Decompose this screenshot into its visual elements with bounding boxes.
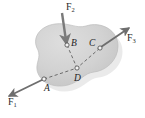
force-label-F2-subscript: 2 [72,6,75,13]
point-marker-D [75,66,79,70]
force-label-F2-text: F [66,1,72,12]
point-marker-C [98,46,102,50]
force-label-F3-text: F [127,32,133,43]
force-label-F3: F3 [127,33,136,43]
force-label-F2: F2 [66,2,75,12]
force-label-F1-subscript: 1 [14,101,17,108]
point-marker-A [42,77,46,81]
point-marker-B [65,43,69,47]
force-label-F3-subscript: 3 [133,37,136,44]
point-label-C: C [89,39,95,49]
force-label-F1: F1 [8,97,17,107]
point-label-B: B [71,39,77,49]
force-diagram-figure: F1 F2 F3 A B C D [0,0,145,118]
figure-canvas [0,0,145,118]
point-label-D: D [74,74,81,84]
point-label-A: A [44,84,50,94]
force-label-F1-text: F [8,96,14,107]
force-arrow-F1 [9,78,46,96]
